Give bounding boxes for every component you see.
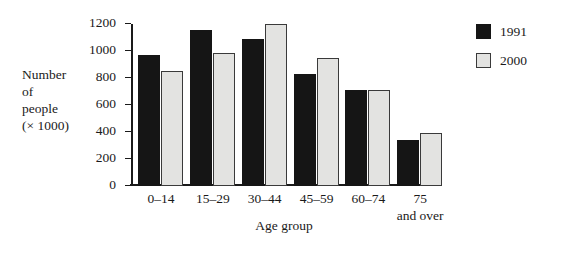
bar-group bbox=[190, 24, 236, 186]
bar-2000-0–14 bbox=[161, 71, 183, 186]
bar-2000-30–44 bbox=[265, 24, 287, 186]
legend-item-1991: 1991 bbox=[476, 20, 527, 43]
legend-label-1991: 1991 bbox=[500, 24, 527, 39]
bar-2000-15–29 bbox=[213, 53, 235, 186]
y-axis-tick-label: 0 bbox=[109, 176, 116, 193]
y-axis-tick-label: 800 bbox=[96, 68, 116, 85]
bar-group bbox=[294, 24, 340, 186]
legend-swatch-1991 bbox=[476, 24, 491, 39]
y-axis-tick-label: 600 bbox=[96, 95, 116, 112]
bar-2000-60–74 bbox=[368, 90, 390, 186]
chart-legend: 19912000 bbox=[476, 20, 527, 78]
bar-chart-figure: Number of people (× 1000) 02004006008001… bbox=[0, 0, 568, 255]
legend-swatch-2000 bbox=[476, 53, 491, 68]
y-axis-tick-label: 400 bbox=[96, 122, 116, 139]
x-axis-title: Age group bbox=[0, 218, 568, 234]
bar-group bbox=[397, 24, 443, 186]
bar-2000-45–59 bbox=[317, 58, 339, 186]
y-axis-tick-label: 1000 bbox=[89, 41, 116, 58]
bar-2000-75-and-over bbox=[420, 133, 442, 186]
bar-1991-0–14 bbox=[138, 55, 160, 186]
legend-item-2000: 2000 bbox=[476, 49, 527, 72]
bar-group bbox=[242, 24, 288, 186]
bars-layer bbox=[131, 24, 442, 186]
bar-1991-45–59 bbox=[294, 74, 316, 186]
y-axis-tick-label: 1200 bbox=[89, 14, 116, 31]
y-axis-title: Number of people (× 1000) bbox=[22, 66, 100, 134]
y-axis-tick-label: 200 bbox=[96, 149, 116, 166]
bar-1991-15–29 bbox=[190, 30, 212, 186]
bar-1991-30–44 bbox=[242, 39, 264, 186]
legend-label-2000: 2000 bbox=[500, 53, 527, 68]
bar-group bbox=[345, 24, 391, 186]
bar-1991-75-and-over bbox=[397, 140, 419, 186]
plot-area: 020040060080010001200 0–1415–2930–4445–5… bbox=[131, 24, 442, 186]
bar-1991-60–74 bbox=[345, 90, 367, 186]
bar-group bbox=[138, 24, 184, 186]
